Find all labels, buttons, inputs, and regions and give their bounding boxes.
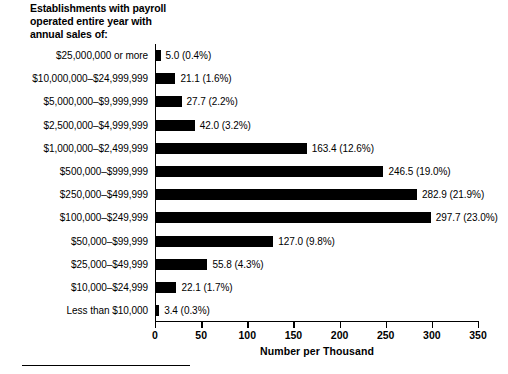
bar <box>156 305 159 316</box>
x-axis-tick <box>432 322 433 328</box>
x-axis-tick-label: 250 <box>366 329 406 342</box>
category-label: $500,000–$999,999 <box>0 160 148 183</box>
category-label: $250,000–$499,999 <box>0 183 148 206</box>
bar-value-label: 282.9 (21.9%) <box>422 183 484 206</box>
bar-row: $50,000–$99,999127.0 (9.8%) <box>0 230 508 253</box>
bar-value-label: 297.7 (23.0%) <box>436 206 498 229</box>
x-axis-tick-label: 200 <box>320 329 360 342</box>
x-axis-tick <box>478 322 479 328</box>
x-axis-tick <box>155 322 156 328</box>
category-label: $10,000–$24,999 <box>0 276 148 299</box>
category-label: $5,000,000–$9,999,999 <box>0 90 148 113</box>
x-axis-tick <box>247 322 248 328</box>
bar-row: Less than $10,0003.4 (0.3%) <box>0 299 508 322</box>
bar <box>156 143 307 154</box>
bar-value-label: 3.4 (0.3%) <box>164 299 210 322</box>
x-axis-tick <box>201 322 202 328</box>
bar-row: $1,000,000–$2,499,999163.4 (12.6%) <box>0 137 508 160</box>
bar <box>156 120 195 131</box>
bar-row: $100,000–$249,999297.7 (23.0%) <box>0 206 508 229</box>
bar <box>156 166 383 177</box>
bar-value-label: 246.5 (19.0%) <box>388 160 450 183</box>
category-label: $25,000–$49,999 <box>0 253 148 276</box>
bar <box>156 96 182 107</box>
x-axis-title: Number per Thousand <box>155 345 479 357</box>
bar <box>156 50 161 61</box>
bar <box>156 236 273 247</box>
bar-chart-plot: $25,000,000 or more5.0 (0.4%)$10,000,000… <box>0 0 508 374</box>
bar <box>156 73 175 84</box>
bar-value-label: 42.0 (3.2%) <box>200 114 251 137</box>
bar-row: $25,000,000 or more5.0 (0.4%) <box>0 44 508 67</box>
x-axis-tick <box>386 322 387 328</box>
bar-row: $500,000–$999,999246.5 (19.0%) <box>0 160 508 183</box>
bar-value-label: 21.1 (1.6%) <box>180 67 231 90</box>
bar-value-label: 5.0 (0.4%) <box>166 44 212 67</box>
bar-row: $2,500,000–$4,999,99942.0 (3.2%) <box>0 114 508 137</box>
bar <box>156 259 207 270</box>
bar <box>156 212 431 223</box>
bar-value-label: 163.4 (12.6%) <box>312 137 374 160</box>
bar <box>156 282 176 293</box>
bar-value-label: 27.7 (2.2%) <box>187 90 238 113</box>
bar-value-label: 55.8 (4.3%) <box>212 253 263 276</box>
category-label: $25,000,000 or more <box>0 44 148 67</box>
bar <box>156 189 417 200</box>
bar-row: $10,000,000–$24,999,99921.1 (1.6%) <box>0 67 508 90</box>
category-label: $1,000,000–$2,499,999 <box>0 137 148 160</box>
x-axis-tick-label: 300 <box>412 329 452 342</box>
x-axis-tick-label: 350 <box>458 329 498 342</box>
bar-row: $25,000–$49,99955.8 (4.3%) <box>0 253 508 276</box>
bar-row: $10,000–$24,99922.1 (1.7%) <box>0 276 508 299</box>
bar-row: $5,000,000–$9,999,99927.7 (2.2%) <box>0 90 508 113</box>
category-label: $100,000–$249,999 <box>0 206 148 229</box>
category-label: Less than $10,000 <box>0 299 148 322</box>
bar-row: $250,000–$499,999282.9 (21.9%) <box>0 183 508 206</box>
x-axis-tick-label: 50 <box>181 329 221 342</box>
category-label: $50,000–$99,999 <box>0 230 148 253</box>
footer-divider <box>22 365 190 366</box>
x-axis-tick <box>293 322 294 328</box>
x-axis-tick-label: 0 <box>135 329 175 342</box>
category-label: $10,000,000–$24,999,999 <box>0 67 148 90</box>
x-axis-tick <box>340 322 341 328</box>
bar-value-label: 127.0 (9.8%) <box>278 230 335 253</box>
x-axis-tick-label: 150 <box>273 329 313 342</box>
x-axis-tick-label: 100 <box>227 329 267 342</box>
category-label: $2,500,000–$4,999,999 <box>0 114 148 137</box>
bar-value-label: 22.1 (1.7%) <box>181 276 232 299</box>
